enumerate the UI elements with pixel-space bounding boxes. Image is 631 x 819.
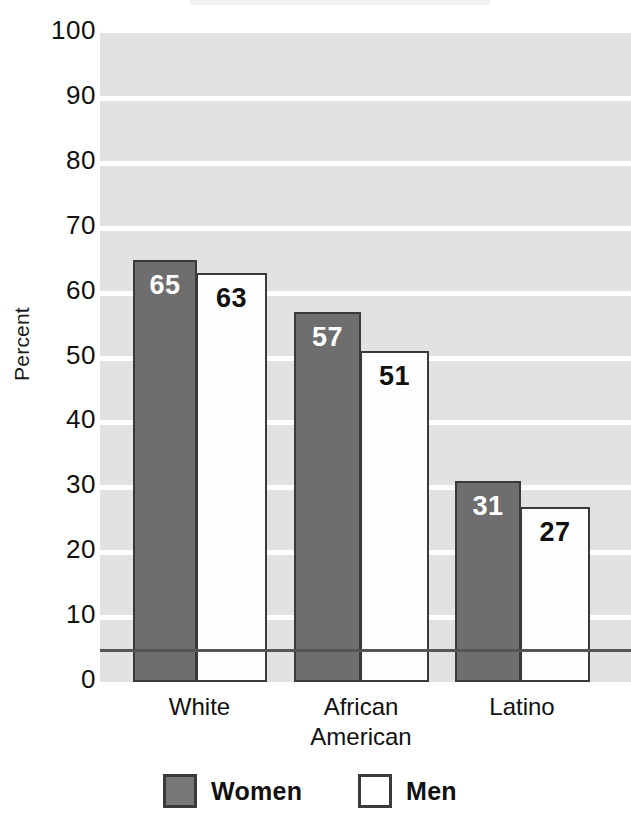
category-label-line: White xyxy=(133,692,266,722)
legend-label-women: Women xyxy=(211,777,302,806)
y-tick-label: 100 xyxy=(8,15,96,46)
plot-area: 656357513127 xyxy=(100,33,631,682)
y-tick-label: 70 xyxy=(8,210,96,241)
gridline xyxy=(100,96,631,101)
y-axis-tick-labels: 1009080706050403020100 xyxy=(0,0,96,819)
bar-white-men: 63 xyxy=(196,273,267,682)
legend-label-men: Men xyxy=(406,777,457,806)
bar-value-label: 51 xyxy=(362,361,427,392)
y-tick-label: 60 xyxy=(8,275,96,306)
bar-chart: Percent 1009080706050403020100 656357513… xyxy=(0,0,631,819)
bar-white-women: 65 xyxy=(133,260,197,682)
y-tick-label: 0 xyxy=(8,664,96,695)
y-tick-label: 30 xyxy=(8,469,96,500)
category-label-line: American xyxy=(294,722,428,752)
legend-item-men: Men xyxy=(358,771,457,811)
gridline xyxy=(100,161,631,166)
y-tick-label: 90 xyxy=(8,80,96,111)
men-swatch-icon xyxy=(358,774,392,808)
category-label-latino: Latino xyxy=(455,692,589,722)
y-tick-label: 20 xyxy=(8,534,96,565)
y-tick-label: 50 xyxy=(8,340,96,371)
category-label-african: AfricanAmerican xyxy=(294,692,428,752)
category-label-white: White xyxy=(133,692,266,722)
bar-african-american-women: 57 xyxy=(294,312,361,682)
y-tick-label: 10 xyxy=(8,599,96,630)
bar-value-label: 27 xyxy=(522,517,588,548)
scan-artifact xyxy=(190,0,490,5)
y-tick-label: 80 xyxy=(8,145,96,176)
x-axis-baseline xyxy=(100,649,631,652)
bar-value-label: 63 xyxy=(198,283,265,314)
category-label-line: African xyxy=(294,692,428,722)
legend-item-women: Women xyxy=(163,771,302,811)
bar-african-american-men: 51 xyxy=(360,351,429,682)
bar-latino-men: 27 xyxy=(520,507,590,682)
gridline xyxy=(100,226,631,231)
bar-value-label: 31 xyxy=(457,491,519,522)
y-tick-label: 40 xyxy=(8,404,96,435)
bar-value-label: 57 xyxy=(296,322,359,353)
category-label-line: Latino xyxy=(455,692,589,722)
chart-legend: Women Men xyxy=(0,771,631,819)
bar-value-label: 65 xyxy=(135,270,195,301)
women-swatch-icon xyxy=(163,774,197,808)
